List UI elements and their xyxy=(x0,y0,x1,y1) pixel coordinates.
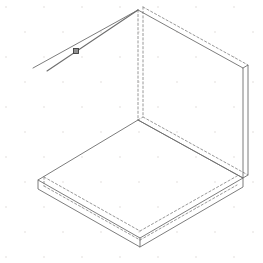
selection-layer[interactable] xyxy=(0,0,263,263)
cad-application-window: Isometric Wireframe L-Bracket Solid xyxy=(0,0,263,263)
vertex-handle[interactable] xyxy=(74,49,79,54)
selected-edge[interactable] xyxy=(47,10,138,71)
drawing-viewport[interactable] xyxy=(0,0,263,263)
